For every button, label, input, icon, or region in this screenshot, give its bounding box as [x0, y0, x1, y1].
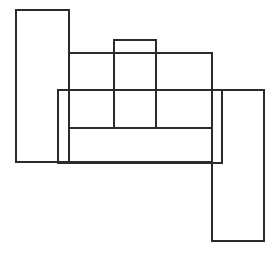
rect-tall-left	[16, 10, 69, 162]
rectangle-diagram	[0, 0, 279, 253]
rect-tall-right	[212, 90, 264, 241]
rect-bottom-band	[69, 128, 212, 162]
rect-wide	[58, 90, 222, 163]
